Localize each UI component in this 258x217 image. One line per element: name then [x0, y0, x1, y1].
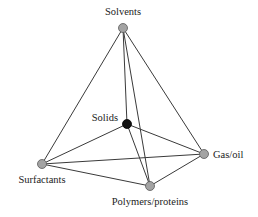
- tetrahedron-diagram: SolventsSolidsGas/oilSurfactantsPolymers…: [0, 0, 258, 217]
- label-solids: Solids: [92, 112, 118, 123]
- edge-group: [42, 28, 204, 186]
- node-gas-oil: [200, 150, 209, 159]
- node-solids: [123, 120, 132, 129]
- label-solvents: Solvents: [105, 6, 141, 17]
- edge-polymers_proteins-gas_oil: [150, 154, 204, 186]
- label-polymers-proteins: Polymers/proteins: [112, 196, 188, 207]
- label-group: SolventsSolidsGas/oilSurfactantsPolymers…: [18, 6, 243, 207]
- node-polymers-proteins: [146, 182, 155, 191]
- edge-solids-surfactants: [42, 124, 127, 164]
- edge-solids-gas_oil: [127, 124, 204, 154]
- edge-solids-polymers_proteins: [127, 124, 150, 186]
- edge-solvents-surfactants: [42, 28, 123, 164]
- node-surfactants: [38, 160, 47, 169]
- label-surfactants: Surfactants: [18, 174, 65, 185]
- edge-solvents-gas_oil: [123, 28, 204, 154]
- node-solvents: [119, 24, 128, 33]
- edge-solvents-polymers_proteins: [123, 28, 150, 186]
- label-gas-oil: Gas/oil: [213, 149, 243, 160]
- edge-surfactants-gas_oil: [42, 154, 204, 164]
- node-group: [38, 24, 209, 191]
